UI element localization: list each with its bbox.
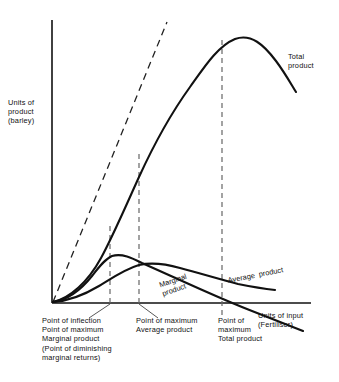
x-axis-title: Units of input (Fertiliser): [258, 311, 303, 329]
annotation-max-total-product: Point of maximum Total product: [218, 316, 262, 344]
tangent-line: [53, 22, 167, 302]
production-function-chart: Units of product (barley) Units of input…: [0, 0, 339, 382]
total-product-curve: [53, 37, 296, 302]
total-product-label: Total product: [288, 52, 314, 70]
annotation-inflection: Point of inflection Point of maximum Mar…: [42, 316, 112, 362]
annotation-max-average-product: Point of maximum Average product: [136, 316, 198, 334]
y-axis-title: Units of product (barley): [8, 98, 34, 126]
